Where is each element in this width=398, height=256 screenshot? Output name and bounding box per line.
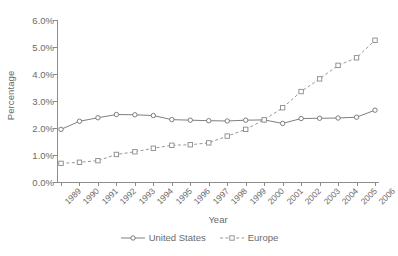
legend-swatch-icon xyxy=(120,233,146,243)
data-point-marker xyxy=(133,150,137,154)
data-point-marker xyxy=(207,141,211,145)
data-point-marker xyxy=(262,118,266,122)
y-axis-tick-mark xyxy=(53,128,57,129)
x-axis-tick-label: 1991 xyxy=(99,186,119,206)
data-point-marker xyxy=(151,146,155,150)
data-point-marker xyxy=(354,56,358,60)
data-point-marker xyxy=(280,106,284,110)
series-line xyxy=(61,40,375,163)
data-point-marker xyxy=(244,118,248,122)
data-point-marker xyxy=(299,116,303,120)
y-axis-title: Percentage xyxy=(0,0,22,190)
data-point-marker xyxy=(59,127,63,131)
data-point-marker xyxy=(280,121,284,125)
legend-item-europe[interactable]: Europe xyxy=(219,232,279,243)
legend-item-united-states[interactable]: United States xyxy=(120,232,206,243)
data-point-marker xyxy=(225,119,229,123)
x-axis-tick-label: 1999 xyxy=(247,186,267,206)
data-point-marker xyxy=(354,115,358,119)
chart-legend: United StatesEurope xyxy=(0,232,398,243)
y-axis-tick-mark xyxy=(53,20,57,21)
y-axis-tick-label: 6.0% xyxy=(22,15,54,26)
y-axis-tick-label: 1.0% xyxy=(22,150,54,161)
data-point-marker xyxy=(77,160,81,164)
x-axis-tick-label: 1995 xyxy=(173,186,193,206)
y-axis-tick-label: 5.0% xyxy=(22,42,54,53)
plot-area xyxy=(57,20,379,182)
y-axis-tick-mark xyxy=(53,74,57,75)
data-point-marker xyxy=(373,108,377,112)
data-point-marker xyxy=(244,127,248,131)
x-axis-tick-label: 1989 xyxy=(63,186,83,206)
data-point-marker xyxy=(336,116,340,120)
data-point-marker xyxy=(207,119,211,123)
data-point-marker xyxy=(96,158,100,162)
x-axis-tick-label: 1998 xyxy=(229,186,249,206)
y-axis-tick-label: 0.0% xyxy=(22,177,54,188)
x-axis-tick-label: 2002 xyxy=(303,186,323,206)
data-point-marker xyxy=(317,77,321,81)
data-point-marker xyxy=(317,116,321,120)
legend-item-label: Europe xyxy=(248,232,279,243)
data-point-marker xyxy=(96,116,100,120)
y-axis-tick-label: 4.0% xyxy=(22,69,54,80)
data-point-marker xyxy=(151,113,155,117)
x-axis-line xyxy=(57,182,379,183)
y-axis-tick-mark xyxy=(53,47,57,48)
y-axis-tick-labels: 0.0%1.0%2.0%3.0%4.0%5.0%6.0% xyxy=(22,0,54,256)
data-point-marker xyxy=(170,143,174,147)
chart-figure: Percentage 0.0%1.0%2.0%3.0%4.0%5.0%6.0% … xyxy=(0,0,398,256)
legend-swatch-icon xyxy=(219,233,245,243)
data-series-layer xyxy=(57,20,379,182)
data-point-marker xyxy=(225,134,229,138)
x-axis-tick-label: 1997 xyxy=(210,186,230,206)
y-axis-tick-label: 3.0% xyxy=(22,96,54,107)
y-axis-tick-label: 2.0% xyxy=(22,123,54,134)
data-point-marker xyxy=(59,161,63,165)
x-axis-tick-label: 2006 xyxy=(377,186,397,206)
x-axis-tick-label: 1990 xyxy=(81,186,101,206)
series-europe xyxy=(59,38,377,166)
x-axis-tick-label: 1996 xyxy=(192,186,212,206)
data-point-marker xyxy=(336,63,340,67)
data-point-marker xyxy=(299,89,303,93)
y-axis-tick-mark xyxy=(53,182,57,183)
series-united-states xyxy=(59,108,377,132)
data-point-marker xyxy=(133,113,137,117)
legend-item-label: United States xyxy=(149,232,206,243)
data-point-marker xyxy=(188,118,192,122)
x-axis-tick-label: 2000 xyxy=(266,186,286,206)
y-axis-tick-mark xyxy=(53,155,57,156)
data-point-marker xyxy=(373,38,377,42)
y-axis-tick-mark xyxy=(53,101,57,102)
series-line xyxy=(61,110,375,129)
x-axis-tick-label: 2003 xyxy=(321,186,341,206)
data-point-marker xyxy=(170,117,174,121)
x-axis-tick-label: 2001 xyxy=(284,186,304,206)
x-axis-title: Year xyxy=(57,214,379,225)
data-point-marker xyxy=(77,119,81,123)
data-point-marker xyxy=(114,152,118,156)
x-axis-tick-label: 1994 xyxy=(155,186,175,206)
y-axis-title-text: Percentage xyxy=(6,70,17,120)
x-axis-tick-label: 1992 xyxy=(118,186,138,206)
x-axis-tick-label: 2004 xyxy=(340,186,360,206)
data-point-marker xyxy=(188,143,192,147)
x-axis-tick-label: 2005 xyxy=(358,186,378,206)
data-point-marker xyxy=(114,112,118,116)
x-axis-tick-label: 1993 xyxy=(136,186,156,206)
